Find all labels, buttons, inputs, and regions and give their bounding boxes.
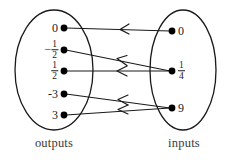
inputs-set-caption: inputs [144, 136, 224, 151]
arrow-0-to-0 [66, 24, 170, 34]
node-label-input-0: 0 [178, 25, 184, 37]
node-dot-input-one-quarter [169, 68, 176, 75]
node-dot-input-0 [169, 28, 176, 35]
node-dot-output-0 [61, 25, 68, 32]
node-label-output-one-half: 12 [51, 60, 58, 82]
fraction-one-half: 12 [51, 39, 58, 61]
fraction-one-quarter: 14 [178, 60, 185, 82]
arrow-quarter-to-neghalf [66, 50, 170, 71]
outputs-set-caption: outputs [0, 136, 108, 151]
node-dot-input-9 [169, 105, 176, 112]
node-label-output-3: 3 [52, 109, 58, 121]
node-label-output-0: 0 [52, 22, 58, 34]
node-label-input-one-quarter: 14 [178, 60, 185, 82]
minus-sign-icon: − [44, 44, 51, 56]
node-dot-output-neg-3 [61, 91, 68, 98]
node-label-output-neg-3: -3 [48, 88, 58, 100]
fraction-one-half: 12 [51, 60, 58, 82]
mapping-diagram: 0 −12 12 -3 3 0 14 9 outputs inputs [0, 0, 236, 160]
node-dot-output-one-half [61, 68, 68, 75]
node-dot-output-neg-one-half [61, 47, 68, 54]
node-label-input-9: 9 [178, 102, 184, 114]
node-label-output-neg-one-half: −12 [44, 39, 58, 61]
node-dot-output-3 [61, 112, 68, 119]
